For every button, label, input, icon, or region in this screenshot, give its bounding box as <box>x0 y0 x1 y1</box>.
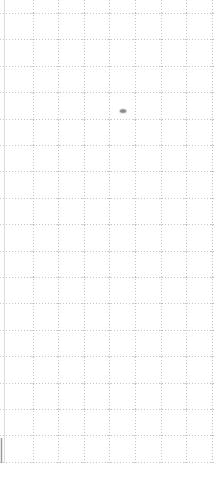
dot-grid-svg <box>0 0 219 493</box>
smudge-dot <box>120 109 126 113</box>
empty-grid-canvas[interactable] <box>0 0 219 493</box>
